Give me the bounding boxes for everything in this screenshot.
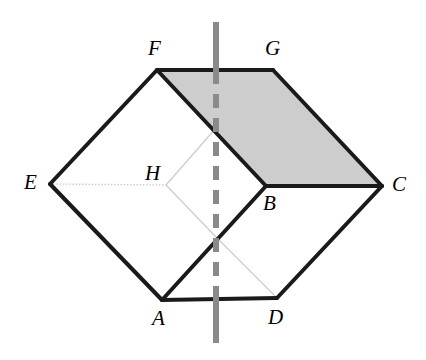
hidden-edge-H-Ptop [166, 128, 216, 185]
vertex-label-A: A [152, 308, 165, 329]
vertex-label-D: D [268, 307, 283, 328]
vertex-label-F: F [148, 38, 161, 59]
figure-canvas [0, 0, 426, 360]
shaded-quadrilateral-FGCB [157, 70, 382, 186]
vertex-label-C: C [392, 174, 406, 195]
geometry-figure: F G E C H B A D [0, 0, 426, 360]
vertex-label-G: G [265, 38, 280, 59]
vertex-label-E: E [24, 172, 37, 193]
vertex-label-B: B [263, 193, 276, 214]
edge-E-A [50, 184, 162, 300]
hidden-edge-H-Pbottom [166, 185, 216, 237]
vertex-label-H: H [145, 163, 160, 184]
edge-D-C [277, 186, 382, 298]
edge-A-D [162, 298, 277, 300]
hidden-edge-Pbottom-D [216, 237, 277, 298]
edge-F-E [50, 70, 157, 184]
